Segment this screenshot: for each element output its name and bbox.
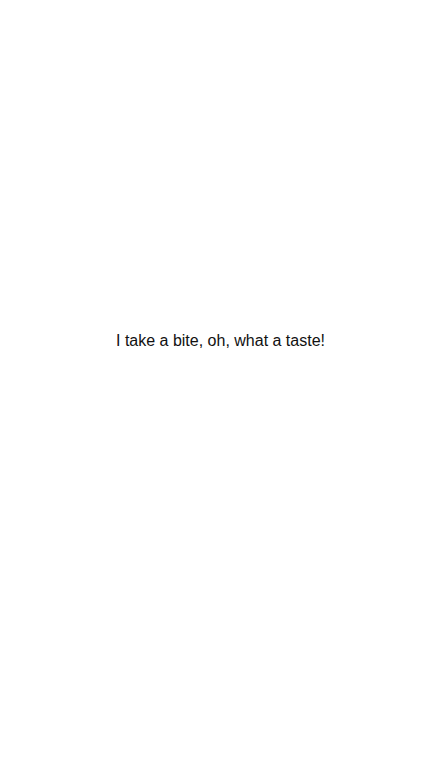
screen: I take a bite, oh, what a taste! [0, 0, 441, 768]
caption-text: I take a bite, oh, what a taste! [0, 331, 441, 351]
